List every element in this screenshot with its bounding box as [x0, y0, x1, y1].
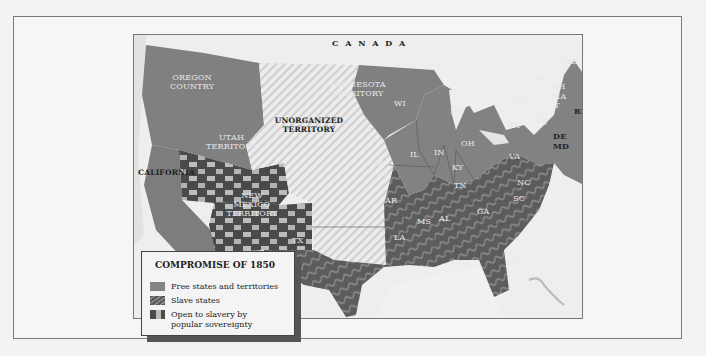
state-label-ar: AR: [385, 196, 397, 205]
state-label-wi: WI: [394, 99, 406, 108]
popular-sovereignty-swatch-icon: [150, 310, 165, 319]
state-label-ct: CT: [548, 101, 560, 110]
state-label-md: MD: [553, 142, 569, 151]
legend-label-slave: Slave states: [171, 296, 220, 306]
label-canada: C A N A D A: [332, 39, 407, 48]
label-california: CALIFORNIA: [138, 168, 195, 177]
state-label-pa: PA: [509, 121, 520, 130]
state-label-nj: NJ: [537, 116, 548, 125]
label-minnesota-territory: MINNESOTA TERRITORY: [328, 80, 388, 98]
state-label-vt: VT: [537, 76, 549, 85]
state-label-oh: OH: [461, 139, 475, 148]
map-legend: COMPROMISE OF 1850 Free states and terri…: [141, 251, 295, 336]
label-utah-territory: UTAH TERRITORY: [204, 133, 259, 151]
legend-item-free: Free states and territories: [150, 282, 278, 292]
label-unorganized-territory: UNORGANIZED TERRITORY: [274, 116, 344, 134]
state-label-sc: SC: [513, 194, 525, 203]
state-label-al: AL: [439, 214, 451, 223]
state-label-me: ME: [563, 57, 577, 66]
state-label-in: IN: [434, 148, 445, 157]
legend-item-popular-sovereignty: Open to slavery by popular sovereignty: [150, 310, 280, 330]
state-label-fl: FL: [506, 258, 517, 267]
state-label-ri: RI: [574, 107, 583, 116]
state-label-la: LA: [394, 233, 406, 242]
slave-swatch-icon: [150, 296, 165, 305]
state-label-mo: MO: [372, 169, 387, 178]
state-label-va: VA: [509, 152, 520, 161]
state-label-ma: MA: [552, 92, 566, 101]
label-oregon-country: OREGON COUNTRY: [162, 73, 222, 91]
legend-title: COMPROMISE OF 1850: [155, 260, 275, 270]
label-new-mexico-territory: NEW MEXICO TERRITORY: [222, 191, 282, 218]
state-label-ms: MS: [417, 217, 431, 226]
state-label-ny: NY: [514, 96, 527, 105]
state-label-tx: TX: [292, 236, 303, 245]
state-label-ia: IA: [375, 158, 384, 167]
legend-label-popular-sovereignty: Open to slavery by popular sovereignty: [171, 310, 280, 330]
state-label-il: IL: [410, 150, 419, 159]
state-label-mi: MI: [450, 107, 462, 116]
state-label-ky: KY: [452, 163, 463, 172]
state-label-de: DE: [553, 132, 566, 141]
state-label-nh: NH: [551, 82, 565, 91]
state-label-nc: NC: [517, 178, 531, 187]
legend-label-free: Free states and territories: [171, 282, 278, 292]
state-label-tn: TN: [454, 181, 467, 190]
state-label-ga: GA: [477, 207, 490, 216]
legend-item-slave: Slave states: [150, 296, 220, 306]
free-swatch-icon: [150, 282, 165, 291]
